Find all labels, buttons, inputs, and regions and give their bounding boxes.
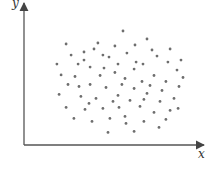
data-point <box>56 63 59 66</box>
data-point <box>142 63 145 66</box>
data-point <box>97 42 100 45</box>
data-point <box>78 85 81 88</box>
data-point <box>156 55 159 58</box>
data-point <box>80 95 83 98</box>
data-point <box>108 56 111 59</box>
data-point <box>159 100 162 103</box>
data-point <box>65 43 68 46</box>
data-point <box>153 111 156 114</box>
data-point <box>118 106 121 109</box>
data-point <box>169 109 172 112</box>
data-point <box>114 45 117 48</box>
data-point <box>65 106 68 109</box>
data-point <box>139 105 142 108</box>
data-point <box>103 67 106 70</box>
data-point <box>126 52 129 55</box>
data-point <box>178 85 181 88</box>
data-point <box>77 63 80 66</box>
data-point <box>91 120 94 123</box>
data-point <box>151 49 154 52</box>
data-point <box>124 77 127 80</box>
data-point <box>135 61 138 64</box>
data-point <box>117 63 120 66</box>
data-point <box>89 83 92 86</box>
data-point <box>125 122 128 125</box>
y-axis-label: y <box>11 0 19 10</box>
data-point <box>149 84 152 87</box>
data-point <box>107 131 110 134</box>
data-point <box>84 108 87 111</box>
data-point <box>169 48 172 51</box>
data-point <box>141 80 144 83</box>
data-point <box>143 98 146 101</box>
data-point <box>102 107 105 110</box>
data-point <box>133 130 136 133</box>
data-point <box>133 68 136 71</box>
data-point <box>182 76 185 79</box>
data-point <box>121 83 124 86</box>
data-point <box>129 99 132 102</box>
data-point <box>122 30 125 33</box>
data-point <box>102 54 105 57</box>
data-point <box>83 51 86 54</box>
scatter-points <box>56 30 185 134</box>
data-point <box>114 71 117 74</box>
data-point <box>58 93 61 96</box>
data-point <box>74 75 77 78</box>
data-point <box>177 107 180 110</box>
data-point <box>167 61 170 64</box>
scatter-chart: y x <box>0 0 218 172</box>
data-point <box>173 97 176 100</box>
data-point <box>73 117 76 120</box>
data-point <box>158 126 161 129</box>
data-point <box>146 38 149 41</box>
data-point <box>60 74 63 77</box>
data-point <box>109 117 112 120</box>
data-point <box>180 59 183 62</box>
data-point <box>83 59 86 62</box>
data-point <box>165 80 168 83</box>
data-point <box>95 97 98 100</box>
data-point <box>124 115 127 118</box>
data-point <box>146 92 149 95</box>
data-point <box>117 94 120 97</box>
data-point <box>93 48 96 51</box>
data-point <box>134 44 137 47</box>
data-point <box>89 66 92 69</box>
data-point <box>88 102 91 105</box>
data-point <box>105 86 108 89</box>
x-axis-label: x <box>198 147 205 161</box>
data-point <box>112 100 115 103</box>
data-point <box>153 74 156 77</box>
data-point <box>143 120 146 123</box>
data-point <box>99 74 102 77</box>
data-point <box>161 89 164 92</box>
data-point <box>165 118 168 121</box>
data-point <box>176 69 179 72</box>
data-point <box>133 87 136 90</box>
data-point <box>67 83 70 86</box>
data-point <box>70 54 73 57</box>
